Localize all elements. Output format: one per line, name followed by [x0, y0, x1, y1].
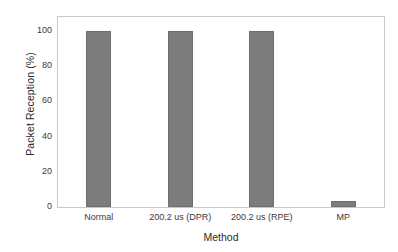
- bar: [86, 31, 111, 207]
- y-axis-tick-label: 40: [26, 132, 52, 141]
- y-axis-tick-label: 80: [26, 61, 52, 70]
- bar: [168, 31, 193, 207]
- x-axis-tick-label: Normal: [84, 212, 113, 223]
- bar: [249, 31, 274, 207]
- bars-group: [58, 17, 384, 207]
- y-axis-tick-label: 60: [26, 96, 52, 105]
- y-axis-tick-label: 100: [26, 26, 52, 35]
- x-axis-tick-label: 200.2 us (RPE): [231, 212, 293, 223]
- y-axis-tick-label: 20: [26, 167, 52, 176]
- y-axis-tick-labels: 020406080100: [26, 0, 52, 252]
- x-axis-tick-label: MP: [337, 212, 351, 223]
- bar: [331, 201, 356, 207]
- y-axis-tick-label: 0: [26, 202, 52, 211]
- x-axis-label: Method: [57, 231, 385, 244]
- bar-chart-figure: Packet Reception (%) 020406080100 Normal…: [0, 0, 398, 252]
- x-axis-tick-label: 200.2 us (DPR): [149, 212, 211, 223]
- x-axis-tick-labels: Normal200.2 us (DPR)200.2 us (RPE)MP: [57, 212, 385, 226]
